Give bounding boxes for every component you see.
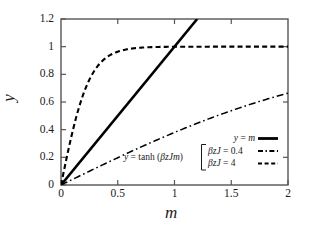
x-tick-label-1: 1 <box>163 187 187 199</box>
figure-container: y m 1.2 1 0.8 0.6 0.4 0.2 0 0 0.5 1 1.5 … <box>0 0 309 227</box>
legend-2-eq: = <box>221 146 231 156</box>
y-tick-label-0p8: 0.8 <box>28 67 54 79</box>
x-axis-label: m <box>165 203 177 223</box>
x-tick-label-2: 2 <box>276 187 300 199</box>
legend-entry-betazj-0p4: βzJ = 0.4 <box>208 146 243 156</box>
legend-3-lhs: βzJ <box>208 158 221 168</box>
legend-2-lhs: βzJ <box>208 146 221 156</box>
legend-entry-y-equals-m: y = m <box>205 133 255 143</box>
plot-canvas <box>0 0 309 227</box>
legend-3-eq: = <box>221 158 231 168</box>
tanh-annotation-close: ) <box>180 152 183 162</box>
y-tick-label-1: 1 <box>28 40 54 52</box>
legend-1-eq: = <box>238 133 248 143</box>
y-axis-label: y <box>0 94 19 102</box>
tanh-annotation-args: βzJm <box>160 152 180 162</box>
y-tick-label-0p2: 0.2 <box>28 150 54 162</box>
tanh-curve-annotation: y = tanh (βzJm) <box>124 152 183 162</box>
y-tick-label-0p6: 0.6 <box>28 95 54 107</box>
legend-entry-betazj-4: βzJ = 4 <box>208 158 236 168</box>
x-tick-label-0: 0 <box>49 187 73 199</box>
tanh-annotation-eq: = tanh ( <box>128 152 160 162</box>
legend-3-rhs: 4 <box>231 158 236 168</box>
legend-2-rhs: 0.4 <box>231 146 243 156</box>
y-tick-label-0p4: 0.4 <box>28 123 54 135</box>
y-tick-label-1p2: 1.2 <box>28 12 54 24</box>
x-tick-label-1p5: 1.5 <box>219 187 243 199</box>
legend-1-rhs: m <box>248 133 255 143</box>
x-tick-label-0p5: 0.5 <box>106 187 130 199</box>
